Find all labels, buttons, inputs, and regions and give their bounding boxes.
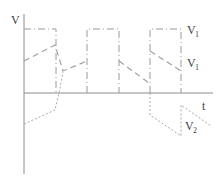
v1-wave-segment-2	[119, 61, 149, 83]
v2-wave-segment-1	[24, 72, 63, 124]
svg-text:1: 1	[195, 63, 199, 72]
square-wave-pulse-1	[24, 29, 56, 93]
square-wave-pulse-2	[87, 29, 119, 93]
svg-text:1: 1	[195, 30, 199, 39]
v2-wave-label: V 2	[185, 119, 197, 135]
square-wave-pulse-3	[150, 29, 181, 93]
square-wave-label: V 1	[187, 23, 199, 39]
x-axis-label: t	[202, 99, 206, 113]
v1-wave-label: V 1	[187, 56, 199, 72]
v1-wave-segment-3	[150, 51, 181, 71]
svg-text:2: 2	[193, 126, 197, 135]
y-axis-label: V	[11, 13, 20, 27]
voltage-time-diagram: V t V 1 V 1 V 2	[0, 0, 224, 184]
